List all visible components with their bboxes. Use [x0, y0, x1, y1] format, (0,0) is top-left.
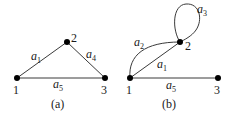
node-3-label: 3: [214, 83, 220, 97]
node-1-label: 1: [13, 83, 19, 97]
graph-diagram: 1 2 3 a1 a4 a5 (a) 1 2 3 a2 a1 a3 a5 (b): [0, 0, 235, 118]
node-2: [64, 39, 70, 45]
edge-a1: [17, 42, 67, 78]
edge-a5-label: a5: [53, 77, 63, 93]
edge-a3-loop: [175, 4, 200, 42]
node-2: [177, 39, 183, 45]
edge-a1-label: a1: [31, 49, 41, 65]
edge-a3-label: a3: [197, 2, 207, 18]
edge-a4-label: a4: [86, 47, 96, 63]
node-1: [127, 75, 133, 81]
graph-a: 1 2 3 a1 a4 a5 (a): [13, 31, 108, 111]
node-3-label: 3: [101, 83, 107, 97]
caption-a: (a): [51, 97, 64, 111]
edge-a1-label: a1: [157, 57, 167, 73]
node-1-label: 1: [126, 83, 132, 97]
caption-b: (b): [162, 97, 176, 111]
node-3: [215, 75, 221, 81]
node-1: [14, 75, 20, 81]
node-2-label: 2: [71, 31, 77, 45]
edge-a2-label: a2: [134, 35, 144, 51]
node-3: [102, 75, 108, 81]
edge-a5-label: a5: [166, 78, 176, 94]
graph-b: 1 2 3 a2 a1 a3 a5 (b): [126, 2, 221, 111]
node-2-label: 2: [185, 39, 191, 53]
